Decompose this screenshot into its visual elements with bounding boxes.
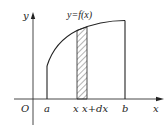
lower-bound-label: a: [44, 103, 50, 114]
y-axis-arrow-icon: [31, 12, 35, 19]
upper-bound-label: b: [122, 103, 128, 114]
x-axis-label: x: [153, 103, 159, 114]
integral-diagram: y y=f(x) O a x x+dx b x: [0, 0, 166, 129]
function-label: y=f(x): [66, 9, 93, 21]
x-axis-arrow-icon: [156, 97, 164, 101]
hatched-strip: [77, 27, 87, 99]
strip-left-label: x: [73, 103, 79, 114]
origin-label: O: [21, 103, 29, 114]
y-axis-label: y: [22, 10, 29, 21]
strip-right-label: x+dx: [82, 103, 108, 114]
